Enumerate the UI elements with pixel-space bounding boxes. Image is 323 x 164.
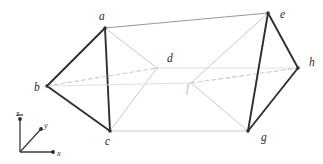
vertex-label-c: c xyxy=(105,135,110,147)
vertex-label-a: a xyxy=(99,10,105,22)
edge-ef xyxy=(191,13,268,83)
axis-label-z: z xyxy=(15,108,20,118)
figure-canvas: abcdefgh zyx xyxy=(0,0,323,164)
edge-gf xyxy=(191,83,248,131)
vertex-label-g: g xyxy=(261,131,267,144)
edge-ae xyxy=(105,13,268,28)
axis-arrowhead-y-icon xyxy=(39,127,43,131)
vertex-point-b xyxy=(45,84,48,87)
axis-label-y: y xyxy=(43,120,48,130)
vertex-point-a xyxy=(103,26,106,29)
vertex-point-f xyxy=(190,82,192,84)
edge-bc xyxy=(47,86,110,131)
vertex-label-e: e xyxy=(280,8,285,20)
vertex-point-h xyxy=(296,66,299,69)
edge-eh xyxy=(268,13,298,68)
edge-cd xyxy=(110,68,157,131)
edge-bf xyxy=(47,83,191,86)
edge-ad xyxy=(105,28,157,68)
vertex-label-b: b xyxy=(34,81,40,93)
vertex-labels-layer: abcdefgh xyxy=(34,8,315,147)
axis-line-y xyxy=(20,129,41,152)
vertex-label-d: d xyxy=(167,52,173,64)
vertex-point-e xyxy=(266,11,269,14)
geometry-figure: abcdefgh zyx xyxy=(0,0,323,164)
vertex-point-d xyxy=(156,67,158,69)
vertex-label-f: f xyxy=(186,82,191,95)
axis-label-x: x xyxy=(56,148,61,158)
edges-layer xyxy=(47,13,298,131)
edge-gh xyxy=(248,68,298,131)
axis-arrowhead-x-icon xyxy=(51,150,55,154)
edge-fh xyxy=(191,68,298,83)
edge-ac xyxy=(105,28,110,131)
edge-ab xyxy=(47,28,105,86)
vertex-point-c xyxy=(108,129,111,132)
vertex-point-g xyxy=(246,129,249,132)
edge-eg xyxy=(248,13,268,131)
vertex-label-h: h xyxy=(309,56,315,68)
axis-triad: zyx xyxy=(15,108,61,158)
